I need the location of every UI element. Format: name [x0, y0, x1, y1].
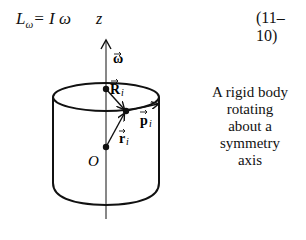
p-vector [126, 104, 158, 111]
svg-text:i: i [149, 118, 152, 129]
origin-label: O [88, 153, 99, 169]
caption-line: about a [202, 118, 298, 135]
caption-line: symmetry [202, 135, 298, 152]
caption-line: rotating [202, 101, 298, 118]
caption-line: axis [202, 152, 298, 169]
R-label: R [110, 82, 121, 97]
diagram-caption: A rigid body rotating about a symmetry a… [202, 84, 298, 169]
p-label: p [140, 113, 148, 128]
omega-label: ω [113, 51, 123, 66]
r-label: r [119, 131, 125, 146]
caption-line: A rigid body [202, 84, 298, 101]
svg-text:i: i [126, 136, 129, 147]
svg-text:i: i [121, 87, 124, 98]
